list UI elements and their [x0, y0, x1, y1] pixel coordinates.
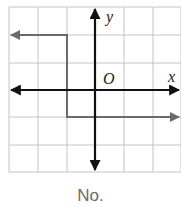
origin-label: O	[103, 70, 115, 87]
coordinate-graph: y O x	[0, 0, 181, 180]
x-axis-label: x	[167, 68, 175, 85]
y-axis-label: y	[104, 8, 114, 26]
caption: No.	[0, 186, 181, 206]
axes	[11, 9, 179, 170]
